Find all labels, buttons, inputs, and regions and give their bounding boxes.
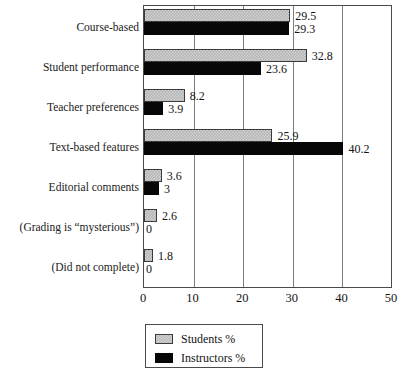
chart-legend: Students %Instructors % [145,324,263,368]
x-tick-label-10: 10 [186,292,199,305]
legend-item: Instructors % [155,352,245,364]
bar-value-label: 3 [164,183,170,195]
bar-students [144,209,157,222]
legend-swatch-students [155,334,173,344]
bar-students [144,89,185,102]
bar-value-label: 3.9 [168,103,183,115]
bar-value-label: 32.8 [312,50,333,62]
bar-value-label: 25.9 [277,130,298,142]
legend-label: Students % [181,333,235,345]
bar-value-label: 40.2 [348,143,369,155]
category-label: Course-based [0,22,139,34]
category-label: (Grading is “mysterious”) [0,222,139,234]
bar-students [144,169,162,182]
x-tick-label-20: 20 [236,292,249,305]
category-label: Teacher preferences [0,102,139,114]
category-axis-labels: Course-basedStudent performanceTeacher p… [0,0,139,290]
category-label: Student performance [0,62,139,74]
bar-instructors [144,62,261,75]
x-axis-ticks: 01020304050 [143,292,392,312]
bar-students [144,129,272,142]
bar-value-label: 8.2 [190,90,205,102]
x-tick-label-30: 30 [286,292,299,305]
bar-value-label: 3.6 [167,170,182,182]
x-tick-label-0: 0 [140,292,146,305]
bar-value-label: 0 [146,263,152,275]
plot-area: 29.532.88.225.93.62.61.829.323.63.940.23… [143,5,392,288]
bar-value-label: 29.3 [294,23,315,35]
bar-students [144,49,307,62]
bar-value-label: 23.6 [266,63,287,75]
category-label: Text-based features [0,142,139,154]
bar-value-label: 2.6 [162,210,177,222]
category-label: Editorial comments [0,182,139,194]
chart-page: Course-basedStudent performanceTeacher p… [0,0,406,373]
bar-value-label: 29.5 [295,10,316,22]
bar-instructors [144,102,163,115]
legend-swatch-instructors [155,353,173,363]
bar-value-label: 1.8 [158,250,173,262]
bar-instructors [144,142,343,155]
bar-instructors [144,22,289,35]
bar-students [144,249,153,262]
category-label: (Did not complete) [0,262,139,274]
bar-instructors [144,182,159,195]
x-tick-label-50: 50 [385,292,398,305]
x-tick-label-40: 40 [335,292,348,305]
legend-item: Students % [155,333,235,345]
bar-value-label: 0 [146,223,152,235]
legend-label: Instructors % [181,352,245,364]
bar-students [144,9,290,22]
